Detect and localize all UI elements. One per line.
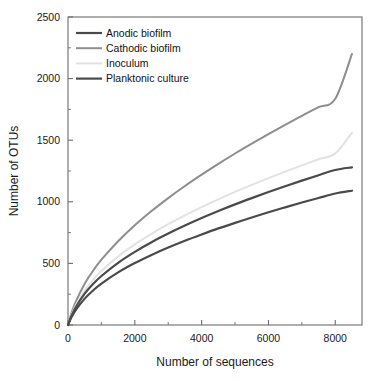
y-tick-label: 500 [42,257,60,269]
x-tick-label: 0 [65,332,71,344]
x-tick-label: 8000 [324,332,348,344]
legend-label-planktonic-culture: Planktonic culture [106,72,189,84]
legend-label-inoculum: Inoculum [106,57,149,69]
x-tick-label: 6000 [257,332,281,344]
y-tick-label: 1000 [37,195,61,207]
x-tick-label: 4000 [190,332,214,344]
rarefaction-curve-chart: 05001000150020002500 02000400060008000 A… [0,0,386,382]
legend-label-cathodic-biofilm: Cathodic biofilm [106,42,181,54]
y-tick-label: 0 [54,319,60,331]
y-tick-label: 2500 [37,11,61,23]
y-tick-label: 2000 [37,72,61,84]
y-tick-label: 1500 [37,134,61,146]
x-tick-label: 2000 [123,332,147,344]
legend-label-anodic-biofilm: Anodic biofilm [106,27,172,39]
x-axis-title: Number of sequences [156,355,273,369]
y-axis-title: Number of OTUs [7,126,21,217]
